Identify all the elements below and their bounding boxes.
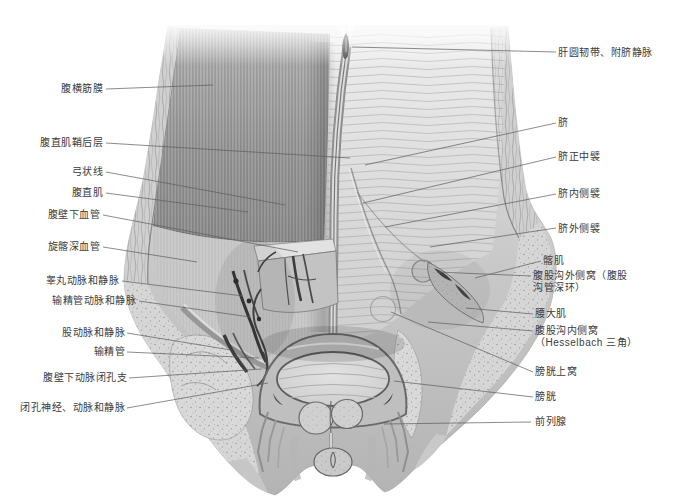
- label-medial-inguinal-fossa-hesselbach: 腹股沟内侧窝 （Hesselbach 三角）: [535, 325, 638, 349]
- label-obturator-branch-epigastric: 腹壁下动脉闭孔支: [43, 372, 127, 384]
- label-prostate: 前列腺: [535, 416, 567, 428]
- label-supravesical-fossa: 膀胱上窝: [535, 366, 577, 378]
- label-deep-circumflex-iliac-vessels: 旋髂深血管: [48, 241, 101, 253]
- label-rectus-abdominis: 腹直肌: [72, 187, 104, 199]
- label-lateral-inguinal-fossa-deep-ring: 腹股沟外侧窝（腹股 沟管深环）: [533, 270, 628, 294]
- label-ductus-deferens: 输精管: [94, 346, 126, 358]
- label-umbilicus: 脐: [558, 117, 569, 129]
- label-inferior-epigastric-vessels: 腹壁下血管: [48, 209, 101, 221]
- label-psoas-major: 腰大肌: [535, 308, 567, 320]
- anatomy-figure: 腹横筋膜 腹直肌鞘后层 弓状线 腹直肌 腹壁下血管 旋髂深血管 睾丸动脉和静脉 …: [0, 0, 680, 502]
- label-urinary-bladder: 膀胱: [535, 391, 556, 403]
- label-posterior-rectus-sheath: 腹直肌鞘后层: [40, 137, 103, 149]
- label-testicular-artery-vein: 睾丸动脉和静脉: [46, 275, 120, 287]
- label-median-umbilical-fold: 脐正中襞: [558, 151, 600, 163]
- label-round-ligament-paraumbilical-veins: 肝圆韧带、附脐静脉: [558, 47, 653, 59]
- label-medial-umbilical-fold: 脐内侧襞: [558, 188, 600, 200]
- top-fade: [120, 20, 570, 66]
- label-obturator-nerve-artery-vein: 闭孔神经、动脉和静脉: [20, 402, 125, 414]
- label-femoral-artery-vein: 股动脉和静脉: [62, 327, 125, 339]
- label-iliacus: 髂肌: [543, 255, 564, 267]
- label-lateral-umbilical-fold: 脐外侧襞: [558, 223, 600, 235]
- label-ductus-deferens-artery-vein: 输精管动脉和静脉: [52, 295, 136, 307]
- anatomy-illustration: [0, 0, 680, 502]
- label-transversalis-fascia: 腹横筋膜: [61, 83, 103, 95]
- label-arcuate-line: 弓状线: [72, 166, 104, 178]
